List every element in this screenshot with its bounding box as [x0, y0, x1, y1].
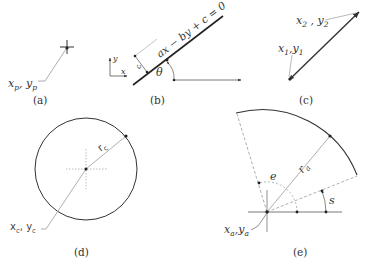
panel-a-point: xp, yp (a): [8, 40, 74, 106]
start-angle-label: s: [329, 194, 335, 207]
arc-center-label: xa,ya: [224, 223, 249, 238]
circle-center-label: xc, yc: [10, 221, 36, 235]
panel-e-caption: (e): [293, 246, 307, 258]
offset-label: c: [134, 64, 143, 69]
circle-radius-label: rc: [95, 140, 110, 156]
end-angle-label: e: [270, 170, 277, 183]
point-marker-icon: [60, 40, 74, 54]
svg-text:y: y: [112, 54, 118, 63]
panel-a-caption: (a): [33, 94, 47, 106]
start-point-label: x1,y1: [278, 42, 304, 57]
geometry-primitives-figure: xp, yp (a) y x c θ ax − by + c = 0 (b): [0, 0, 369, 268]
panel-b-caption: (b): [150, 94, 165, 106]
panel-c-segment: x2 , y2 x1,y1 (c): [278, 12, 359, 106]
line-equation-label: ax − by + c = 0: [154, 0, 228, 60]
arc-radius-label: ra: [295, 160, 313, 177]
point-leader-line: [38, 49, 66, 81]
panel-d-circle: rc xc, yc (d): [10, 118, 137, 258]
panel-b-line: y x c θ ax − by + c = 0 (b): [110, 0, 241, 106]
panel-e-arc: ra e s xa,ya (e): [224, 110, 357, 258]
line-equation-line: [133, 16, 223, 85]
axes-icon: y x: [110, 54, 127, 76]
svg-text:x: x: [121, 67, 126, 76]
point-label: xp, yp: [8, 77, 37, 92]
panel-c-caption: (c): [299, 94, 313, 106]
panel-d-caption: (d): [74, 246, 89, 258]
end-point-label: x2 , y2: [296, 14, 329, 29]
theta-label: θ: [156, 66, 163, 79]
